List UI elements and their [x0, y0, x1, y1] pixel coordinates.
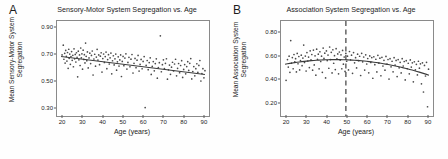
- x-axis-tick-mark: [62, 115, 63, 118]
- y-axis-tick-label: 0.70: [41, 51, 53, 57]
- x-axis-tick-label: 80: [404, 119, 411, 125]
- panel-a-y-axis-label: Mean Sensory-Motor System Segregation: [8, 10, 23, 110]
- x-axis-tick-label: 50: [120, 119, 127, 125]
- x-axis-tick-mark: [203, 115, 204, 118]
- panel-b-y-axis-label-line1: Mean Association System: [232, 22, 239, 98]
- panel-a-axis-ticks: 0.300.500.700.902030405060708090: [56, 20, 208, 115]
- y-axis-tick-mark: [54, 108, 57, 109]
- y-axis-tick-label: 0.50: [41, 78, 53, 84]
- panel-b: B Association System Segregation vs. Age…: [224, 0, 448, 159]
- panel-a-y-axis-label-line1: Mean Sensory-Motor System: [8, 17, 15, 102]
- x-axis-tick-mark: [326, 115, 327, 118]
- x-axis-tick-label: 60: [364, 119, 371, 125]
- panel-a-y-axis-label-line2: Segregation: [16, 10, 24, 110]
- x-axis-tick-mark: [427, 115, 428, 118]
- x-axis-tick-mark: [367, 115, 368, 118]
- x-axis-tick-mark: [143, 115, 144, 118]
- panel-b-title: Association System Segregation vs. Age: [258, 6, 444, 13]
- x-axis-tick-label: 40: [99, 119, 106, 125]
- x-axis-tick-mark: [346, 115, 347, 118]
- panel-b-y-axis-label-line2: Segregation: [240, 10, 248, 110]
- x-axis-tick-label: 30: [79, 119, 86, 125]
- y-axis-tick-mark: [278, 55, 281, 56]
- panel-b-y-axis-label: Mean Association System Segregation: [232, 10, 247, 110]
- y-axis-tick-label: 0.30: [41, 105, 53, 111]
- y-axis-tick-label: 0.40: [265, 76, 277, 82]
- y-axis-tick-mark: [278, 103, 281, 104]
- x-axis-tick-label: 90: [201, 119, 208, 125]
- x-axis-tick-mark: [163, 115, 164, 118]
- x-axis-tick-mark: [286, 115, 287, 118]
- x-axis-tick-label: 70: [160, 119, 167, 125]
- x-axis-tick-label: 40: [323, 119, 330, 125]
- y-axis-tick-mark: [54, 26, 57, 27]
- x-axis-tick-mark: [387, 115, 388, 118]
- x-axis-tick-label: 20: [283, 119, 290, 125]
- x-axis-tick-mark: [82, 115, 83, 118]
- figure-container: A Sensory-Motor System Segregation vs. A…: [0, 0, 448, 159]
- panel-a-x-axis-label: Age (years): [56, 128, 208, 136]
- x-axis-tick-mark: [183, 115, 184, 118]
- x-axis-tick-label: 50: [344, 119, 351, 125]
- panel-b-x-axis-label: Age (years): [280, 128, 432, 136]
- x-axis-tick-mark: [122, 115, 123, 118]
- y-axis-tick-mark: [54, 53, 57, 54]
- x-axis-tick-label: 20: [59, 119, 66, 125]
- x-axis-tick-mark: [306, 115, 307, 118]
- x-axis-tick-label: 60: [140, 119, 147, 125]
- panel-a-title: Sensory-Motor System Segregation vs. Age: [34, 6, 220, 13]
- x-axis-tick-label: 70: [384, 119, 391, 125]
- x-axis-tick-label: 30: [303, 119, 310, 125]
- y-axis-tick-label: 0.80: [265, 29, 277, 35]
- x-axis-tick-mark: [407, 115, 408, 118]
- y-axis-tick-label: 0.90: [41, 24, 53, 30]
- y-axis-tick-mark: [54, 81, 57, 82]
- y-axis-tick-mark: [278, 79, 281, 80]
- x-axis-tick-label: 90: [425, 119, 432, 125]
- panel-a: A Sensory-Motor System Segregation vs. A…: [0, 0, 224, 159]
- x-axis-tick-label: 80: [180, 119, 187, 125]
- y-axis-tick-label: 0.20: [265, 100, 277, 106]
- x-axis-tick-mark: [102, 115, 103, 118]
- y-axis-tick-label: 0.60: [265, 53, 277, 59]
- y-axis-tick-mark: [278, 31, 281, 32]
- panel-b-axis-ticks: 0.200.400.600.802030405060708090: [280, 20, 432, 115]
